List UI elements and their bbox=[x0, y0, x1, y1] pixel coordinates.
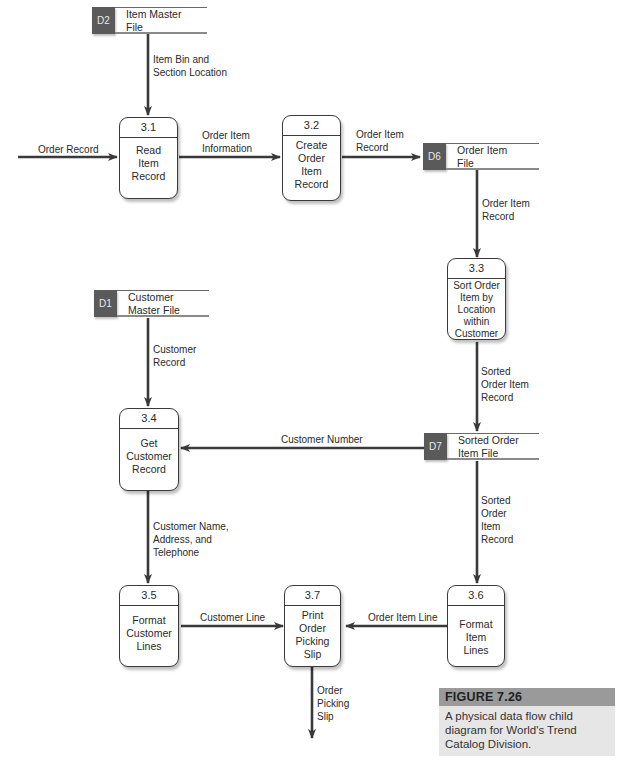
data-store-d7: D7 Sorted Order Item File bbox=[424, 433, 539, 460]
data-store-name: Item Master File bbox=[126, 8, 181, 33]
flow-label-item-bin: Item Bin and Section Location bbox=[153, 53, 227, 79]
process-id: 3.5 bbox=[120, 586, 178, 606]
figure-title: FIGURE 7.26 bbox=[439, 688, 615, 706]
process-id: 3.6 bbox=[448, 586, 504, 606]
figure-caption: FIGURE 7.26 A physical data flow child d… bbox=[439, 688, 615, 756]
flow-label-order-record: Order Record bbox=[38, 143, 99, 156]
process-id: 3.4 bbox=[120, 409, 178, 429]
process-name: Read Item Record bbox=[120, 138, 177, 183]
flow-label-sorted-order-item-record-to-d7: Sorted Order Item Record bbox=[481, 365, 529, 404]
data-store-d1: D1 Customer Master File bbox=[94, 290, 209, 317]
process-id: 3.2 bbox=[283, 116, 340, 136]
data-store-name: Order Item File bbox=[457, 144, 507, 169]
data-store-id: D1 bbox=[94, 290, 117, 317]
data-store-name: Customer Master File bbox=[128, 291, 180, 316]
flow-label-customer-number: Customer Number bbox=[281, 433, 363, 446]
figure-caption-text: A physical data flow child diagram for W… bbox=[439, 706, 615, 756]
process-id: 3.3 bbox=[448, 259, 505, 279]
process-name: Format Item Lines bbox=[448, 606, 504, 657]
data-store-name: Sorted Order Item File bbox=[458, 434, 519, 459]
data-store-id: D2 bbox=[92, 7, 115, 34]
process-3-5: 3.5 Format Customer Lines bbox=[119, 585, 179, 667]
process-id: 3.7 bbox=[285, 586, 340, 606]
data-store-id: D7 bbox=[424, 433, 447, 460]
flow-label-order-item-information: Order Item Information bbox=[202, 129, 252, 155]
data-store-d6: D6 Order Item File bbox=[423, 143, 539, 170]
data-store-id: D6 bbox=[423, 143, 446, 170]
flow-label-order-item-line: Order Item Line bbox=[368, 611, 437, 624]
process-3-7: 3.7 Print Order Picking Slip bbox=[284, 585, 341, 667]
process-id: 3.1 bbox=[120, 118, 177, 138]
process-3-6: 3.6 Format Item Lines bbox=[447, 585, 505, 667]
flow-label-customer-record: Customer Record bbox=[153, 343, 196, 369]
data-flow-diagram: D2 Item Master File D6 Order Item File D… bbox=[0, 0, 624, 768]
process-3-4: 3.4 Get Customer Record bbox=[119, 408, 179, 491]
flow-label-order-item-record-to-d6: Order Item Record bbox=[356, 128, 404, 154]
flow-label-customer-name-address: Customer Name, Address, and Telephone bbox=[153, 520, 229, 559]
process-name: Print Order Picking Slip bbox=[285, 606, 340, 661]
flow-label-sorted-order-item-record-from-d7: Sorted Order Item Record bbox=[481, 494, 513, 546]
flow-label-customer-line: Customer Line bbox=[200, 611, 265, 624]
process-3-3: 3.3 Sort Order Item by Location within C… bbox=[447, 258, 506, 340]
flow-label-order-item-record-from-d6: Order Item Record bbox=[482, 197, 530, 223]
process-name: Format Customer Lines bbox=[120, 606, 178, 653]
process-name: Get Customer Record bbox=[120, 429, 178, 476]
data-store-d2: D2 Item Master File bbox=[92, 7, 207, 34]
process-name: Sort Order Item by Location within Custo… bbox=[448, 279, 505, 340]
process-3-2: 3.2 Create Order Item Record bbox=[282, 115, 341, 201]
flow-label-order-picking-slip: Order Picking Slip bbox=[317, 684, 349, 723]
process-name: Create Order Item Record bbox=[283, 136, 340, 191]
process-3-1: 3.1 Read Item Record bbox=[119, 117, 178, 199]
